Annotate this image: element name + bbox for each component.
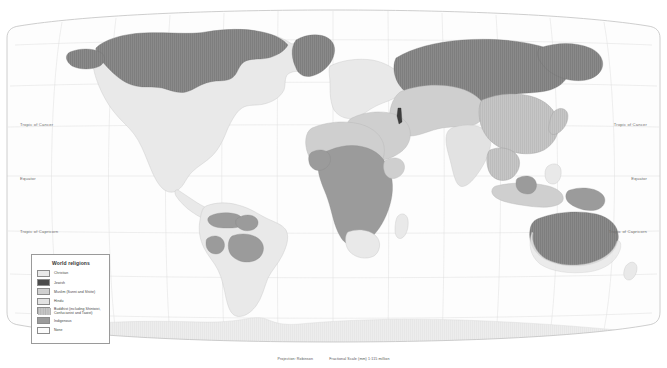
- legend-item-muslim: Muslim (Sunni and Shiite): [37, 288, 105, 295]
- label-equator-right: Equator: [631, 176, 647, 181]
- legend-label-buddhist: Buddhist (including Shintoist, Confucian…: [54, 307, 105, 315]
- projection-label: Projection: Robinson: [277, 357, 313, 361]
- label-tropic-of-cancer-right: Tropic of Cancer: [614, 122, 647, 127]
- legend-item-hindu: Hindu: [37, 298, 105, 305]
- label-equator-left: Equator: [20, 176, 36, 181]
- legend-swatch-none: [37, 327, 50, 334]
- scale-label: Fractional Scale (mm) 1:115 million: [329, 357, 389, 361]
- map-legend: World religions Christian Jewish Muslim …: [31, 254, 110, 344]
- legend-swatch-jewish: [37, 279, 50, 286]
- legend-item-christian: Christian: [37, 270, 105, 277]
- legend-swatch-buddhist: [37, 307, 50, 314]
- legend-title: World religions: [37, 260, 105, 266]
- label-tropic-of-capricorn-left: Tropic of Capricorn: [20, 229, 58, 234]
- label-tropic-of-capricorn-right: Tropic of Capricorn: [609, 229, 647, 234]
- legend-label-none: None: [54, 328, 63, 332]
- region-philippines-christian: [545, 164, 561, 184]
- legend-swatch-christian: [37, 270, 50, 277]
- legend-label-christian: Christian: [54, 271, 68, 275]
- legend-swatch-muslim: [37, 288, 50, 295]
- legend-item-indigenous: Indigenous: [37, 317, 105, 324]
- legend-item-buddhist: Buddhist (including Shintoist, Confucian…: [37, 307, 105, 315]
- legend-item-none: None: [37, 327, 105, 334]
- legend-swatch-indigenous: [37, 317, 50, 324]
- map-caption: Projection: Robinson Fractional Scale (m…: [0, 357, 667, 361]
- legend-label-jewish: Jewish: [54, 281, 65, 285]
- legend-label-muslim: Muslim (Sunni and Shiite): [54, 290, 95, 294]
- legend-label-indigenous: Indigenous: [54, 319, 72, 323]
- world-religions-map: Tropic of Cancer Tropic of Cancer Equato…: [0, 0, 667, 368]
- legend-label-hindu: Hindu: [54, 299, 63, 303]
- legend-swatch-hindu: [37, 298, 50, 305]
- label-tropic-of-cancer-left: Tropic of Cancer: [20, 122, 53, 127]
- legend-item-jewish: Jewish: [37, 279, 105, 286]
- region-alaska-none: [66, 49, 104, 69]
